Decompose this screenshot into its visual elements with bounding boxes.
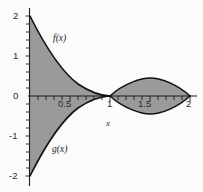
y-tick-label-1: 1 [13,51,18,61]
curve-label-f: f(x) [53,34,66,44]
x-axis-label: x [106,119,110,128]
x-tick-label-1: 1 [107,99,112,109]
plot-canvas [0,0,203,192]
x-tick-label-0-5: 0.5 [58,99,71,109]
y-tick-label-0: 0 [13,91,18,101]
y-tick-label-minus-2: -2 [9,171,17,181]
y-tick-label-2: 2 [13,11,18,21]
chart-figure: 2 1 0 -1 -2 0.5 1 1.5 2 x f(x) g(x) [0,0,203,192]
curve-label-g: g(x) [52,145,67,155]
y-tick-label-minus-1: -1 [9,131,17,141]
x-tick-label-2: 2 [186,99,191,109]
x-tick-label-1-5: 1.5 [138,99,151,109]
